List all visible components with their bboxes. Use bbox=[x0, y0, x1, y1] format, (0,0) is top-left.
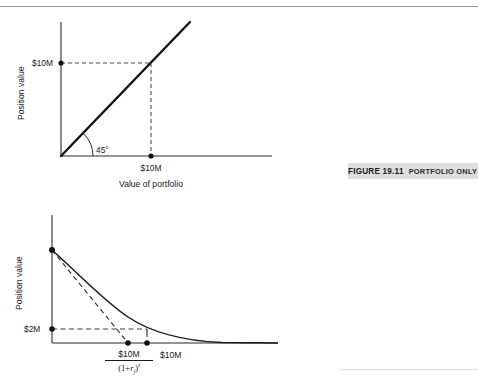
fraction-numerator: $10M bbox=[105, 350, 153, 361]
chart-short-forward-svg: Position value $2M bbox=[0, 205, 300, 350]
chart2-x-marker-discounted bbox=[125, 340, 131, 346]
chart1-payoff-line bbox=[61, 22, 190, 156]
figure-number: FIGURE 19.11 bbox=[348, 167, 404, 176]
chart-portfolio-only-svg: Position value $10M 45° $10M Value of po… bbox=[0, 10, 300, 195]
fraction-denom-exponent: t bbox=[138, 362, 140, 368]
chart1-y-tick-label: $10M bbox=[32, 58, 53, 68]
chart2-x-tick-discounted-label: $10M (1+rf)t bbox=[105, 350, 153, 374]
fraction-denom-open: (1+ bbox=[118, 362, 130, 372]
figure-page: Position value $10M 45° $10M Value of po… bbox=[0, 0, 478, 379]
top-divider-rule bbox=[0, 6, 478, 7]
chart2-curve-start-marker bbox=[49, 247, 55, 253]
chart1-angle-label: 45° bbox=[96, 145, 109, 155]
figure-title: Portfolio only bbox=[409, 167, 478, 176]
chart1-x-tick-label: $10M bbox=[141, 163, 162, 173]
chart1-x-marker bbox=[148, 153, 153, 158]
figure-caption: FIGURE 19.11 Portfolio only bbox=[348, 163, 478, 179]
chart1-angle-arc bbox=[84, 134, 93, 156]
chart2-x-marker-10m bbox=[144, 340, 150, 346]
chart1-x-axis-title: Value of portfolio bbox=[119, 179, 183, 189]
chart1-y-marker bbox=[58, 60, 63, 65]
chart2-discount-curve bbox=[52, 250, 278, 343]
chart2-x-tick-10m-label: $10M bbox=[160, 350, 182, 360]
chart-short-forward: Position value $2M bbox=[0, 205, 300, 350]
chart2-y-tick-label: $2M bbox=[24, 324, 40, 334]
chart2-y-marker-2m bbox=[49, 326, 55, 332]
bottom-divider-rule bbox=[340, 369, 478, 370]
chart2-y-axis-title: Position value bbox=[14, 256, 24, 310]
fraction-denominator: (1+rf)t bbox=[105, 361, 153, 375]
chart-portfolio-only: Position value $10M 45° $10M Value of po… bbox=[0, 10, 300, 195]
chart1-y-axis-title: Position value bbox=[16, 66, 26, 120]
